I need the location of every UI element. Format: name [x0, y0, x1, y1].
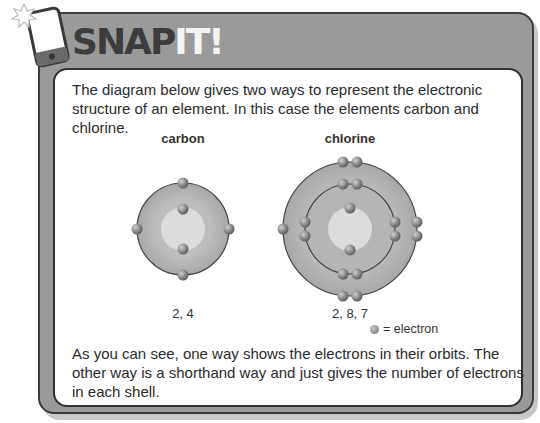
carbon-atom-diagram — [128, 174, 238, 284]
title-it: IT! — [174, 21, 222, 62]
carbon-configuration: 2, 4 — [133, 306, 233, 321]
phone-camera-icon — [10, 0, 72, 72]
carbon-label: carbon — [123, 131, 243, 146]
intro-paragraph: The diagram below gives two ways to repr… — [72, 80, 522, 137]
chlorine-atom-diagram — [280, 159, 420, 299]
title-snap: SNAP — [72, 21, 174, 62]
electron-icon — [370, 325, 379, 334]
outro-paragraph: As you can see, one way shows the electr… — [72, 344, 527, 401]
legend: = electron — [370, 322, 438, 336]
chlorine-configuration: 2, 8, 7 — [300, 306, 400, 321]
chlorine-label: chlorine — [290, 131, 410, 146]
page-title: SNAPIT! — [72, 20, 223, 64]
legend-label: = electron — [383, 322, 438, 336]
